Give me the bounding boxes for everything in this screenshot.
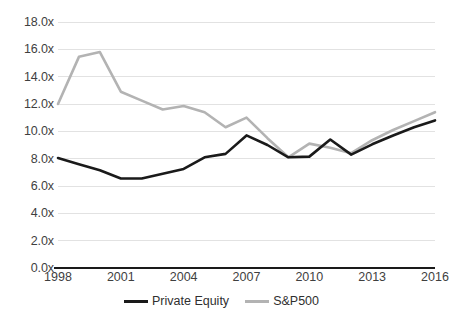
y-axis-tick-label: 14.0x [2,71,54,84]
y-axis-tick-label: 10.0x [2,125,54,138]
gridlines [58,22,435,241]
x-axis-tick-label: 2010 [287,271,331,284]
y-axis-tick-label: 8.0x [2,153,54,166]
legend-color-swatch [245,300,269,303]
x-axis-tick-label: 2013 [350,271,394,284]
x-axis-tick-label: 2007 [225,271,269,284]
y-axis-tick-label: 12.0x [2,98,54,111]
legend-color-swatch [124,300,148,303]
legend-label: Private Equity [152,295,229,308]
y-axis-tick-label: 4.0x [2,207,54,220]
x-axis-tick-label: 2016 [413,271,453,284]
legend-item[interactable]: S&P500 [245,295,319,308]
series-line-private-equity [58,120,435,178]
y-axis-tick-label: 16.0x [2,43,54,56]
y-axis-tick-label: 6.0x [2,180,54,193]
chart-legend: Private EquityS&P500 [0,291,443,311]
y-axis-tick-label: 18.0x [2,16,54,29]
y-axis-tick-label: 2.0x [2,235,54,248]
legend-label: S&P500 [273,295,319,308]
data-series-group [58,52,435,178]
legend-item[interactable]: Private Equity [124,295,229,308]
x-axis-tick-labels: 1998200120042007201020132016 [0,271,443,289]
x-axis-tick-label: 2004 [162,271,206,284]
x-axis-tick-label: 1998 [36,271,80,284]
x-axis-tick-label: 2001 [99,271,143,284]
